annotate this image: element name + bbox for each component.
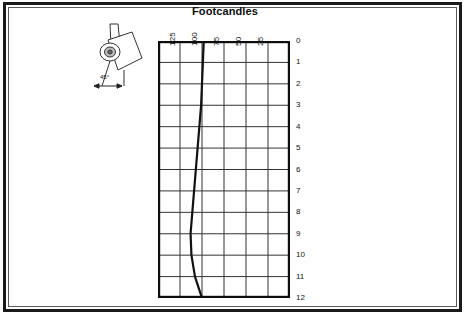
chart-plot-area [158,41,290,298]
y-axis-tick-label: 5 [296,143,300,152]
y-axis-tick-label: 6 [296,165,300,174]
figure-page: Footcandles 45° [0,0,466,316]
y-axis-tick-label: 8 [296,207,300,216]
y-axis-tick-label: 9 [296,229,300,238]
y-axis-tick-label: 11 [296,272,304,281]
y-axis-tick-label: 2 [296,79,300,88]
x-axis-tick-label: 25 [256,37,265,46]
chart-grid-svg [158,41,290,298]
x-axis-tick-label: 75 [212,37,221,46]
chart-title: Footcandles [158,5,292,17]
x-axis-tick-label: 125 [168,32,177,46]
y-axis-tick-label: 4 [296,122,300,131]
y-axis-tick-label: 3 [296,100,300,109]
y-axis-tick-label: 0 [296,36,300,45]
x-axis-tick-label: 100 [190,32,199,46]
y-axis-tick-label: 7 [296,186,300,195]
tilted-luminaire-icon [80,20,152,92]
luminaire-angle-label: 45° [100,74,109,80]
y-axis-tick-label: 10 [296,250,305,259]
x-axis-tick-label: 50 [234,37,243,46]
y-axis-tick-label: 1 [296,57,300,66]
y-axis-tick-label: 12 [296,293,305,302]
